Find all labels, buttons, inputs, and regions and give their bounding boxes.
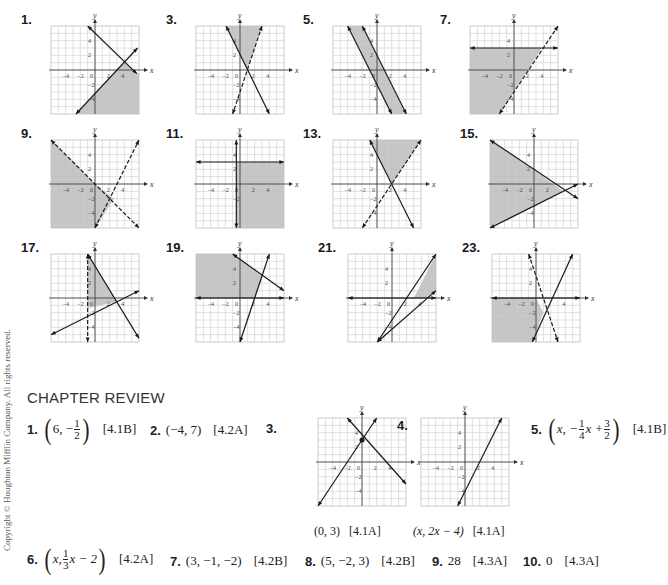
svg-text:2: 2 [88,280,91,286]
svg-text:4: 4 [491,465,494,471]
svg-text:2: 2 [88,166,91,172]
svg-text:y: y [531,125,536,134]
svg-text:y: y [533,239,538,248]
svg-text:x: x [519,458,524,467]
svg-text:2: 2 [458,444,461,450]
svg-text:0: 0 [372,187,375,193]
svg-text:−2: −2 [222,187,228,193]
review-answer-5: 5. (x, − 14x + 32) [4.1B] [531,414,666,444]
graph-11: 11.xy−4−202442−2 [178,132,306,236]
svg-text:4: 4 [233,266,236,272]
svg-text:y: y [237,239,242,248]
svg-text:x: x [149,180,154,189]
svg-text:4: 4 [121,301,124,307]
graph-17: 17.xy−4−202442−2−4 [33,246,161,350]
review-answer-8: 8.(5, −2, 3)[4.2B] [305,553,415,569]
svg-text:−4: −4 [529,324,535,330]
svg-text:4: 4 [88,152,91,158]
svg-text:−2: −2 [385,310,391,316]
svg-text:−4: −4 [63,187,69,193]
svg-text:4: 4 [266,187,269,193]
svg-text:−4: −4 [527,210,533,216]
graph-19: 19.xy−4−202442−2−4 [178,246,306,350]
fraction: 12 [74,418,80,441]
svg-text:−4: −4 [233,324,239,330]
svg-text:0: 0 [509,73,512,79]
svg-text:0: 0 [235,73,238,79]
svg-text:0: 0 [90,301,93,307]
svg-text:−4: −4 [345,73,351,79]
graph-15: 15.xy−4−20242−2−4 [472,132,600,236]
svg-text:−2: −2 [370,196,376,202]
svg-text:4: 4 [458,430,461,436]
svg-text:−4: −4 [345,187,351,193]
exercise-number: 21. [318,240,336,255]
svg-text:y: y [92,125,97,134]
svg-text:x: x [294,180,299,189]
svg-text:−2: −2 [518,301,524,307]
svg-text:0: 0 [387,301,390,307]
svg-text:−2: −2 [529,310,535,316]
svg-text:2: 2 [385,280,388,286]
graph-3: 3.xy−4−202442−2−4 [178,18,306,122]
svg-text:4: 4 [540,73,543,79]
svg-text:−4: −4 [355,488,361,494]
svg-text:−4: −4 [360,301,366,307]
graph-21: 21.xy−4−202442−2−4 [330,246,458,350]
svg-text:y: y [389,239,394,248]
svg-text:4: 4 [121,187,124,193]
svg-text:−2: −2 [233,310,239,316]
svg-text:4: 4 [527,152,530,158]
review-answer-6: 6. (x, 13x − 2) [4.2A] [27,544,153,574]
review-answer-3-caption: (0, 3) [4.1A] [314,524,381,539]
svg-text:2: 2 [233,166,236,172]
exercise-number: 3. [166,12,177,27]
graph-13: 13.xy−4−202442−2−4 [315,132,443,236]
svg-text:y: y [92,11,97,20]
svg-text:−2: −2 [527,196,533,202]
graph-23: 23.xy−4−20442−2−4 [474,246,602,350]
svg-text:y: y [237,125,242,134]
svg-text:x: x [590,294,595,303]
svg-text:2: 2 [252,187,255,193]
svg-text:y: y [359,403,364,412]
svg-text:2: 2 [529,280,532,286]
graph-7: 7.xy−4−202442−2−4 [452,18,580,122]
svg-text:x: x [294,294,299,303]
svg-text:−4: −4 [63,301,69,307]
svg-text:−2: −2 [374,301,380,307]
graph-cr3: xy−4−202442−2−4 [310,410,428,514]
svg-text:0: 0 [90,187,93,193]
svg-text:−4: −4 [63,73,69,79]
svg-text:y: y [374,11,379,20]
svg-text:−2: −2 [359,187,365,193]
exercise-number: 15. [460,126,478,141]
graph-9: 9.xy−4−202442−2−4 [33,132,161,236]
svg-text:4: 4 [121,73,124,79]
svg-text:−2: −2 [233,82,239,88]
svg-text:x: x [568,66,573,75]
review-answer-9: 9.28[4.3A] [432,553,507,569]
exercise-number: 19. [166,240,184,255]
exercise-number: 5. [303,12,314,27]
review-answer-1: 1. (6, − 12) [4.1B] [27,414,136,444]
svg-text:2: 2 [88,52,91,58]
graph-cr4: xy−4−202442−2−4 [413,410,531,514]
svg-text:−2: −2 [496,73,502,79]
svg-text:4: 4 [88,266,91,272]
svg-text:x: x [588,180,593,189]
exercise-number: 1. [21,12,32,27]
review-answer-3-number: 3. [266,421,277,436]
svg-text:0: 0 [235,301,238,307]
svg-text:2: 2 [389,73,392,79]
svg-text:−2: −2 [447,465,453,471]
review-answer-4-caption: (x, 2x − 4) [4.1A] [413,524,504,539]
svg-text:−4: −4 [208,187,214,193]
svg-text:−4: −4 [330,465,336,471]
review-answer-2: 2. (−4, 7) [4.2A] [150,422,248,438]
svg-text:4: 4 [266,73,269,79]
svg-text:2: 2 [507,52,510,58]
svg-text:y: y [462,403,467,412]
svg-text:4: 4 [233,152,236,158]
graph-1: 1.xy−4−202442−2−4 [33,18,161,122]
